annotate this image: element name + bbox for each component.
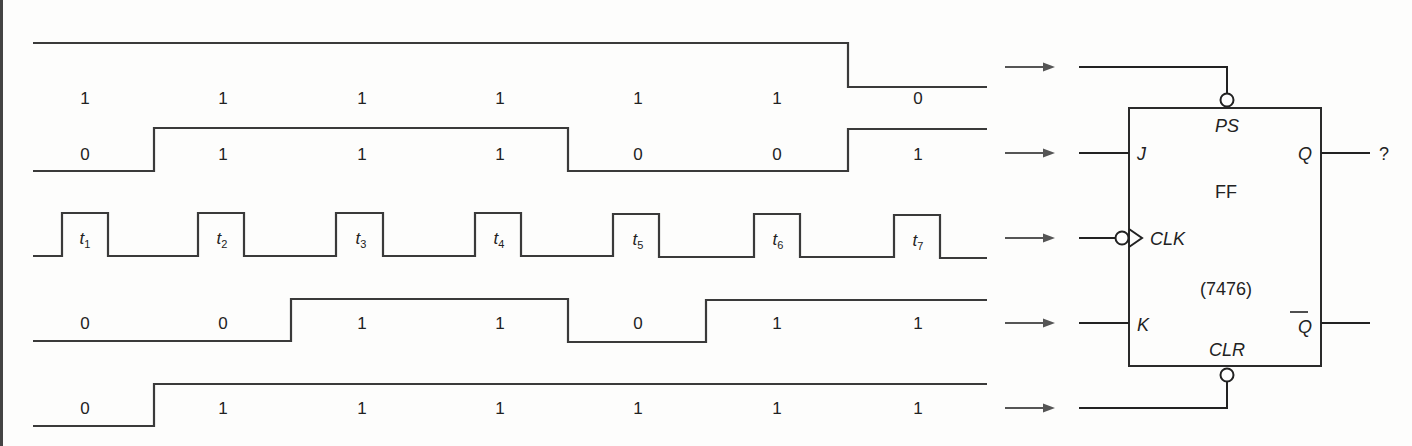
level-label: 1	[218, 399, 227, 418]
level-label: 1	[357, 145, 366, 164]
level-label: 1	[772, 314, 781, 333]
pin-label-k: K	[1137, 315, 1150, 335]
level-label: 1	[495, 145, 504, 164]
arrow-k	[1005, 319, 1055, 328]
clock-pulse-label-t1: t1	[80, 229, 91, 250]
clock-edge-triangle-icon	[1129, 229, 1142, 247]
level-label: 1	[913, 314, 922, 333]
level-label: 1	[357, 399, 366, 418]
jk-flip-flop: PS J CLK K CLR Q ? Q FF	[1079, 67, 1389, 408]
level-label: 0	[772, 145, 781, 164]
waveform-clr: 0 1 1 1 1 1 1	[33, 384, 987, 426]
page-edge-line	[0, 0, 3, 446]
level-label: 1	[80, 89, 89, 108]
pin-label-ps: PS	[1215, 116, 1239, 136]
pin-label-clk: CLK	[1150, 229, 1186, 249]
level-label: 1	[357, 89, 366, 108]
pin-label-clr: CLR	[1209, 340, 1245, 360]
timing-diagram-figure: 1 1 1 1 1 1 0 0 1 1 1 0 0 1 t1 t2 t3 t4 …	[0, 0, 1412, 446]
arrow-right-icon	[1043, 319, 1055, 328]
arrow-j	[1005, 149, 1055, 158]
level-label: 1	[913, 145, 922, 164]
pin-label-q-bar: Q	[1298, 317, 1312, 337]
pin-label-j: J	[1136, 144, 1147, 164]
clock-pulse-label-t7: t7	[913, 231, 924, 252]
level-label: 0	[80, 145, 89, 164]
diagram-canvas: 1 1 1 1 1 1 0 0 1 1 1 0 0 1 t1 t2 t3 t4 …	[0, 0, 1412, 446]
flip-flop-part-number: (7476)	[1200, 279, 1252, 299]
level-label: 1	[218, 145, 227, 164]
arrow-clr	[1005, 404, 1055, 413]
level-label: 1	[633, 89, 642, 108]
level-label: 1	[357, 314, 366, 333]
clock-pulse-label-t4: t4	[494, 229, 505, 250]
ps-inversion-bubble-icon	[1221, 94, 1234, 107]
level-label: 1	[913, 399, 922, 418]
level-label: 1	[495, 399, 504, 418]
clock-pulse-label-t6: t6	[773, 230, 784, 251]
clock-pulse-label-t3: t3	[356, 229, 367, 250]
clr-inversion-bubble-icon	[1221, 369, 1234, 382]
clock-pulse-label-t2: t2	[217, 229, 228, 250]
level-label: 0	[218, 314, 227, 333]
level-label: 1	[633, 399, 642, 418]
level-label: 1	[772, 399, 781, 418]
pin-label-q: Q	[1298, 144, 1312, 164]
level-label: 0	[633, 314, 642, 333]
level-label: 1	[495, 314, 504, 333]
level-label: 0	[913, 89, 922, 108]
waveform-j: 0 1 1 1 0 0 1	[33, 128, 987, 171]
flip-flop-name: FF	[1215, 182, 1237, 202]
level-label: 0	[80, 314, 89, 333]
q-output-unknown: ?	[1379, 144, 1389, 164]
clr-wire	[1079, 382, 1227, 408]
arrow-right-icon	[1043, 149, 1055, 158]
level-label: 0	[80, 399, 89, 418]
clk-inversion-bubble-icon	[1116, 232, 1129, 245]
arrow-clk	[1005, 234, 1055, 243]
level-label: 1	[772, 89, 781, 108]
level-label: 1	[495, 89, 504, 108]
arrow-right-icon	[1043, 234, 1055, 243]
waveform-ps: 1 1 1 1 1 1 0	[33, 43, 987, 108]
clock-pulse-label-t5: t5	[633, 230, 644, 251]
waveform-clk: t1 t2 t3 t4 t5 t6 t7	[33, 213, 987, 258]
level-label: 0	[633, 145, 642, 164]
ps-wire	[1079, 67, 1227, 93]
arrow-right-icon	[1043, 63, 1055, 72]
arrow-ps	[1005, 63, 1055, 72]
arrow-right-icon	[1043, 404, 1055, 413]
level-label: 1	[218, 89, 227, 108]
waveform-k: 0 0 1 1 0 1 1	[33, 299, 987, 342]
